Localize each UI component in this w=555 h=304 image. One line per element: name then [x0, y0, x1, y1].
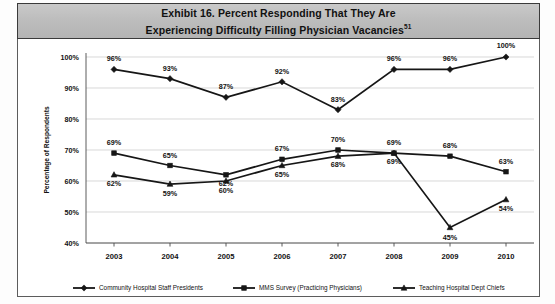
legend-item-3[interactable]: Teaching Hospital Dept Chiefs: [393, 284, 505, 292]
data-point-marker: [504, 169, 509, 174]
y-axis-tick-label: 60%: [65, 177, 80, 186]
legend-item-1[interactable]: Community Hospital Staff Presidents: [73, 284, 203, 292]
data-point-label: 68%: [331, 160, 346, 169]
data-point-marker: [448, 154, 453, 159]
line-chart: 40%50%60%70%80%90%100%200320042005200620…: [0, 0, 555, 304]
data-point-label: 54%: [499, 204, 514, 213]
data-point-label: 83%: [331, 95, 346, 104]
data-point-label: 69%: [107, 138, 122, 147]
legend-item-2[interactable]: MMS Survey (Practicing Physicians): [233, 284, 362, 292]
x-axis-tick-label: 2007: [330, 252, 347, 261]
data-point-marker: [447, 66, 453, 72]
data-point-label: 67%: [275, 144, 290, 153]
data-point-label: 62%: [107, 179, 122, 188]
x-axis-tick-label: 2008: [386, 252, 403, 261]
data-point-marker: [224, 173, 229, 178]
data-point-label: 60%: [219, 186, 234, 195]
data-point-label: 69%: [387, 138, 402, 147]
data-point-marker: [280, 157, 285, 162]
y-axis-tick-label: 80%: [65, 115, 80, 124]
x-axis-tick-label: 2010: [498, 252, 515, 261]
data-point-label: 96%: [387, 54, 402, 63]
x-axis-tick-label: 2004: [162, 252, 180, 261]
data-point-marker: [279, 79, 285, 85]
data-point-label: 59%: [163, 189, 178, 198]
data-point-label: 100%: [497, 41, 516, 50]
y-axis-tick-label: 40%: [65, 239, 80, 248]
data-point-marker: [503, 197, 509, 202]
data-point-label: 68%: [443, 141, 458, 150]
y-axis-tick-label: 50%: [65, 208, 80, 217]
data-point-label: 70%: [331, 135, 346, 144]
series-1: 96%93%87%92%83%96%96%100%: [107, 41, 516, 113]
data-point-label: 96%: [107, 54, 122, 63]
exhibit-panel: Exhibit 16. Percent Responding That They…: [0, 0, 555, 304]
data-point-marker: [336, 148, 341, 153]
x-axis-tick-label: 2009: [442, 252, 459, 261]
data-point-label: 63%: [499, 157, 514, 166]
data-point-marker: [503, 54, 509, 60]
legend-label: Teaching Hospital Dept Chiefs: [419, 284, 505, 292]
data-point-label: 87%: [219, 82, 234, 91]
y-axis-title: Percentage of Respondents: [43, 106, 51, 194]
y-axis-tick-label: 100%: [61, 53, 80, 62]
y-axis-tick-label: 70%: [65, 146, 80, 155]
data-point-marker: [112, 151, 117, 156]
data-point-label: 96%: [443, 54, 458, 63]
x-axis-tick-label: 2003: [106, 252, 123, 261]
x-axis-tick-label: 2006: [274, 252, 291, 261]
legend-marker: [242, 286, 247, 291]
legend-label: MMS Survey (Practicing Physicians): [259, 284, 362, 292]
data-point-label: 92%: [275, 67, 290, 76]
y-axis-tick-label: 90%: [65, 84, 80, 93]
data-point-marker: [111, 66, 117, 72]
data-point-label: 45%: [443, 233, 458, 242]
data-point-label: 69%: [387, 157, 402, 166]
data-point-marker: [167, 76, 173, 82]
x-axis-tick-label: 2005: [218, 252, 236, 261]
data-point-marker: [168, 163, 173, 168]
data-point-label: 65%: [163, 151, 178, 160]
data-point-label: 93%: [163, 64, 178, 73]
legend-label: Community Hospital Staff Presidents: [99, 284, 203, 292]
chart-plot-area: 40%50%60%70%80%90%100%200320042005200620…: [0, 0, 555, 304]
data-point-label: 65%: [275, 170, 290, 179]
legend-marker: [81, 285, 87, 291]
data-point-marker: [223, 94, 229, 100]
